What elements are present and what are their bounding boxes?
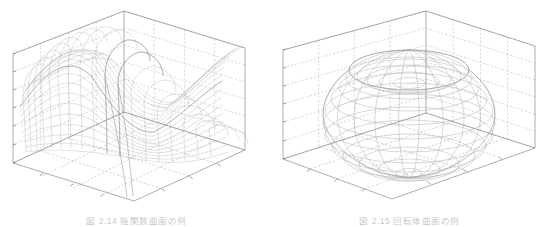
right-axis-box <box>283 11 535 199</box>
left-plot-caption: 図 2.14 陰関数曲面の例 <box>0 216 273 227</box>
right-back-wall-grid <box>283 11 535 159</box>
right-plot-caption: 図 2.15 回転体曲面の例 <box>273 216 546 227</box>
right-plot-panel: 図 2.15 回転体曲面の例 <box>273 0 546 227</box>
figure-container: 図 2.14 陰関数曲面の例 <box>0 0 546 227</box>
right-surface-silhouette <box>323 50 495 177</box>
left-plot-panel: 図 2.14 陰関数曲面の例 <box>0 0 273 227</box>
saddle-peaks-surface-plot <box>0 0 273 214</box>
ellipsoid-vase-surface-plot <box>273 0 546 214</box>
left-axis-box <box>13 11 245 201</box>
left-surface-mesh <box>20 27 248 163</box>
